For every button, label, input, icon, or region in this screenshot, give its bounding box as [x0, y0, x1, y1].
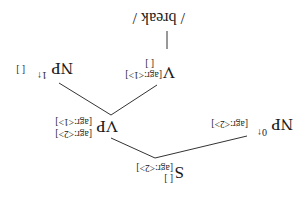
- node-label: V: [163, 64, 175, 81]
- feature-ne: [ ]: [145, 59, 154, 69]
- node-label: NP: [271, 116, 293, 133]
- syntax-tree: S [ ] [agr:<2>] NP 0↑ [agr:<2>] VP [agr:…: [0, 0, 303, 201]
- feature-ne: [ ]: [16, 65, 25, 75]
- feature-agr-1: [agr:<1>]: [55, 117, 92, 127]
- edge-s-np0: [155, 136, 247, 158]
- feature-agr: [agr:<2>]: [136, 163, 173, 173]
- node-label: VP: [96, 118, 118, 135]
- index-arrow: 0↑: [257, 127, 267, 137]
- node-label: NP: [51, 60, 73, 77]
- feature-ne: [ ]: [164, 174, 173, 184]
- edge-vp-np1: [59, 83, 111, 115]
- feature-agr: [agr:<1>]: [125, 70, 162, 80]
- feature-agr-2: [agr:<2>]: [55, 129, 92, 139]
- feature-agr: [agr:<2>]: [211, 119, 248, 129]
- node-label: S: [175, 164, 184, 181]
- edge-s-vp: [111, 138, 155, 158]
- index-arrow: 1↑: [37, 70, 47, 80]
- leaf-lexeme: / break /: [133, 10, 185, 26]
- syntax-tree-figure: S [ ] [agr:<2>] NP 0↑ [agr:<2>] VP [agr:…: [0, 0, 303, 201]
- edge-vp-v: [111, 85, 157, 115]
